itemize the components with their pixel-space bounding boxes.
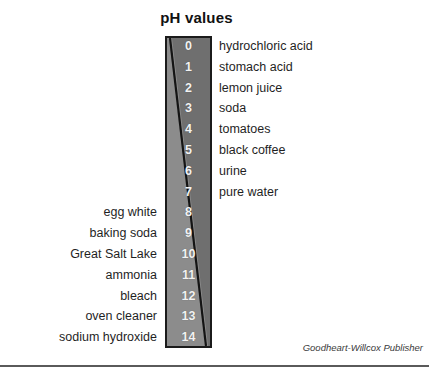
ph-value-number: 9 <box>165 223 212 244</box>
ph-value-number: 14 <box>165 327 212 348</box>
ph-value-number: 0 <box>165 36 212 57</box>
ph-base-label: oven cleaner <box>0 306 157 327</box>
ph-value-number: 4 <box>165 119 212 140</box>
ph-value-number: 8 <box>165 202 212 223</box>
ph-row: 0hydrochloric acid <box>0 36 429 57</box>
chart-title-text: pH values <box>160 9 233 26</box>
ph-row: bleach12 <box>0 286 429 307</box>
ph-scale-figure: pH values 0hydrochloric acid1stomach aci… <box>0 0 429 376</box>
publisher-credit: Goodheart-Willcox Publisher <box>303 342 423 353</box>
ph-base-label: ammonia <box>0 265 157 286</box>
ph-row: 7pure water <box>0 182 429 203</box>
ph-row: oven cleaner13 <box>0 306 429 327</box>
ph-acid-label: lemon juice <box>219 78 424 99</box>
ph-acid-label: pure water <box>219 182 424 203</box>
ph-row: 3soda <box>0 98 429 119</box>
ph-row: Great Salt Lake10 <box>0 244 429 265</box>
page-title: pH values <box>0 9 429 26</box>
ph-value-number: 5 <box>165 140 212 161</box>
ph-value-number: 10 <box>165 244 212 265</box>
ph-acid-label: stomach acid <box>219 57 424 78</box>
ph-row: 2lemon juice <box>0 78 429 99</box>
ph-row: baking soda9 <box>0 223 429 244</box>
ph-value-number: 1 <box>165 57 212 78</box>
ph-acid-label: soda <box>219 98 424 119</box>
ph-value-number: 6 <box>165 161 212 182</box>
ph-value-number: 2 <box>165 78 212 99</box>
ph-value-number: 13 <box>165 306 212 327</box>
ph-base-label: sodium hydroxide <box>0 327 157 348</box>
ph-row: egg white8 <box>0 202 429 223</box>
ph-row: 4tomatoes <box>0 119 429 140</box>
ph-row: 6urine <box>0 161 429 182</box>
ph-value-number: 11 <box>165 265 212 286</box>
ph-row: 1stomach acid <box>0 57 429 78</box>
ph-base-label: bleach <box>0 286 157 307</box>
ph-value-number: 12 <box>165 286 212 307</box>
ph-value-number: 3 <box>165 98 212 119</box>
ph-base-label: egg white <box>0 202 157 223</box>
ph-acid-label: black coffee <box>219 140 424 161</box>
ph-acid-label: urine <box>219 161 424 182</box>
ph-row-list: 0hydrochloric acid1stomach acid2lemon ju… <box>0 36 429 348</box>
bottom-divider <box>0 365 429 367</box>
ph-acid-label: tomatoes <box>219 119 424 140</box>
ph-row: ammonia11 <box>0 265 429 286</box>
ph-base-label: Great Salt Lake <box>0 244 157 265</box>
ph-row: 5black coffee <box>0 140 429 161</box>
ph-base-label: baking soda <box>0 223 157 244</box>
ph-value-number: 7 <box>165 182 212 203</box>
ph-acid-label: hydrochloric acid <box>219 36 424 57</box>
